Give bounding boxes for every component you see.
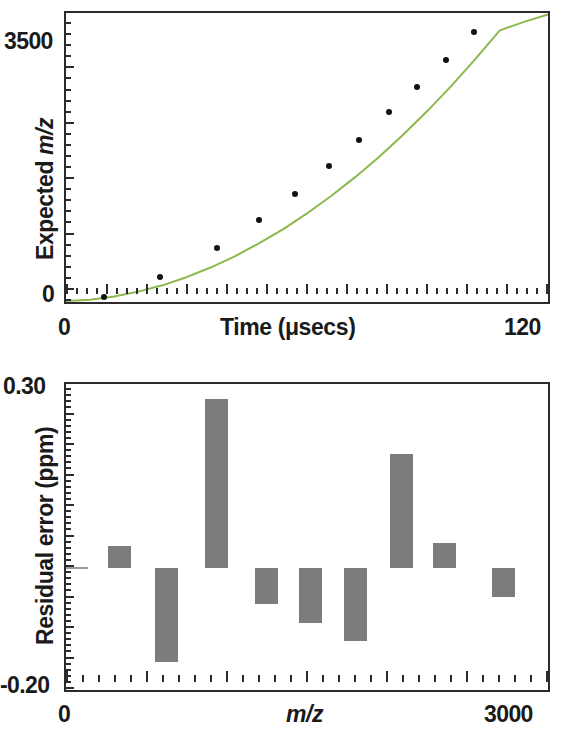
bottom-x-minor-tick — [498, 675, 500, 682]
top-y-minor-tick — [66, 100, 71, 102]
bottom-y-minor-tick — [66, 528, 71, 530]
bottom-x-tick-label-max: 3000 — [484, 703, 533, 726]
bottom-y-minor-tick — [66, 449, 71, 451]
top-x-minor-tick — [136, 288, 138, 294]
bottom-y-minor-tick — [66, 492, 71, 494]
bottom-y-tick-label-min: -0.20 — [0, 674, 49, 697]
bottom-y-minor-tick — [66, 644, 71, 646]
top-x-minor-tick — [106, 284, 108, 294]
bottom-y-minor-tick — [66, 535, 74, 537]
top-x-minor-tick — [426, 284, 428, 294]
calibration-data-point — [157, 274, 163, 280]
top-x-minor-tick — [226, 284, 228, 294]
bottom-x-minor-tick — [146, 671, 148, 682]
bottom-x-minor-tick — [66, 671, 68, 682]
top-panel-calibration-curve: 3500 0 Expected m/z 0 120 Time (μsecs) — [0, 0, 576, 355]
residual-bar — [433, 543, 456, 567]
bottom-y-minor-tick — [66, 474, 74, 476]
calibration-data-point — [292, 191, 298, 197]
top-x-minor-tick — [466, 284, 468, 294]
bottom-x-minor-tick — [130, 675, 132, 682]
top-x-minor-tick — [436, 288, 438, 294]
bottom-x-minor-tick — [82, 675, 84, 682]
bottom-plot-frame — [64, 382, 550, 692]
bottom-x-tick-label-min: 0 — [58, 703, 70, 726]
bottom-y-minor-tick — [66, 437, 71, 439]
bottom-y-minor-tick — [66, 467, 71, 469]
residual-bar — [205, 399, 228, 567]
bottom-x-minor-tick — [162, 675, 164, 682]
bottom-y-minor-tick — [66, 498, 71, 500]
top-x-minor-tick — [416, 288, 418, 294]
bottom-y-minor-tick — [66, 388, 71, 390]
bottom-y-minor-tick — [66, 516, 71, 518]
bottom-y-minor-tick — [66, 443, 74, 445]
residual-bar — [344, 568, 367, 641]
top-y-minor-tick — [66, 111, 71, 113]
top-x-axis-title: Time (μsecs) — [220, 316, 355, 339]
top-x-minor-tick — [86, 288, 88, 294]
fit-curve-path — [66, 14, 548, 301]
top-x-minor-tick — [356, 288, 358, 294]
top-x-minor-tick — [336, 288, 338, 294]
bottom-y-minor-tick — [66, 596, 74, 598]
top-x-minor-tick — [486, 288, 488, 294]
bottom-y-minor-tick — [66, 541, 71, 543]
bottom-y-minor-tick — [66, 571, 71, 573]
top-x-minor-tick — [536, 288, 538, 294]
bottom-x-minor-tick — [370, 675, 372, 682]
top-x-minor-tick — [166, 288, 168, 294]
bottom-y-minor-tick — [66, 461, 71, 463]
top-y-minor-tick — [66, 210, 71, 212]
top-x-minor-tick — [516, 288, 518, 294]
top-y-minor-tick — [66, 221, 71, 223]
top-x-minor-tick — [526, 288, 528, 294]
top-x-tick-label-max: 120 — [504, 316, 541, 339]
top-y-minor-tick — [66, 77, 71, 79]
bottom-y-minor-tick — [66, 486, 71, 488]
bottom-x-minor-tick — [290, 675, 292, 682]
bottom-y-minor-tick — [66, 657, 74, 659]
residual-bar — [492, 568, 515, 597]
top-x-minor-tick — [396, 288, 398, 294]
top-y-minor-tick — [66, 11, 74, 13]
calibration-data-point — [414, 84, 420, 90]
top-x-minor-tick — [326, 288, 328, 294]
top-y-minor-tick — [66, 166, 71, 168]
top-plot-area — [66, 13, 548, 302]
bottom-y-minor-tick — [66, 565, 74, 567]
residual-bar — [108, 546, 131, 567]
bottom-y-minor-tick — [66, 583, 71, 585]
bottom-x-minor-tick — [402, 675, 404, 682]
bottom-y-minor-tick — [66, 589, 71, 591]
calibration-curve-line — [66, 13, 548, 302]
bottom-x-axis-ticks — [64, 680, 550, 692]
residual-bar — [255, 568, 278, 605]
top-y-minor-tick — [66, 188, 71, 190]
bottom-y-minor-tick — [66, 620, 71, 622]
bottom-x-minor-tick — [274, 675, 276, 682]
top-y-minor-tick — [66, 122, 74, 124]
top-x-minor-tick — [496, 288, 498, 294]
top-x-minor-tick — [346, 284, 348, 294]
bottom-x-minor-tick — [354, 675, 356, 682]
top-x-minor-tick — [316, 288, 318, 294]
bottom-y-minor-tick — [66, 413, 74, 415]
top-y-minor-tick — [66, 133, 71, 135]
top-x-axis-ticks — [64, 292, 550, 304]
bottom-y-minor-tick — [66, 602, 71, 604]
top-x-minor-tick — [116, 288, 118, 294]
bottom-y-minor-tick — [66, 382, 74, 384]
bottom-x-minor-tick — [210, 675, 212, 682]
top-x-minor-tick — [206, 288, 208, 294]
bottom-x-minor-tick — [258, 675, 260, 682]
bottom-y-minor-tick — [66, 553, 71, 555]
bottom-y-minor-tick — [66, 400, 71, 402]
top-y-minor-tick — [66, 266, 71, 268]
top-x-minor-tick — [456, 288, 458, 294]
top-y-axis-title-text: Expected — [32, 155, 58, 260]
bottom-x-minor-tick — [194, 675, 196, 682]
bottom-y-minor-tick — [66, 419, 71, 421]
top-x-minor-tick — [156, 288, 158, 294]
top-y-axis-ticks — [66, 11, 76, 302]
